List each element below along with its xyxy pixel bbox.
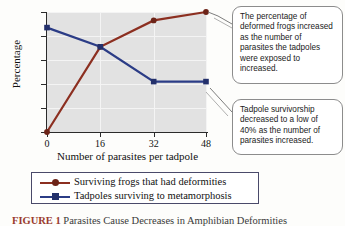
series-line-survivorship <box>47 28 206 82</box>
legend-marker-circle-icon <box>40 176 70 188</box>
legend-label: Surviving frogs that had deformities <box>70 176 226 188</box>
callout-survivorship: Tadpole survivorship decreased to a low … <box>232 99 343 155</box>
legend-item-deformities: Surviving frogs that had deformities <box>32 175 258 189</box>
figure-caption-text: Parasites Cause Decreases in Amphibian D… <box>63 215 287 226</box>
chart-legend: Surviving frogs that had deformities Tad… <box>31 172 259 204</box>
legend-label: Tadpoles surviving to metamorphosis <box>70 190 232 202</box>
series-point-survivorship <box>98 44 104 50</box>
callout-deformities: The percentage of deformed frogs increas… <box>232 6 343 84</box>
series-layer <box>0 0 240 160</box>
series-point-deformities <box>151 18 157 24</box>
series-point-survivorship <box>151 79 157 85</box>
series-point-survivorship <box>203 79 209 85</box>
series-point-deformities <box>44 129 50 135</box>
series-point-deformities <box>203 9 209 15</box>
chart-plot: 100 80 60 40 20 0 0 16 32 48 Percentage … <box>0 0 240 160</box>
figure-caption: FIGURE 1 Parasites Cause Decreases in Am… <box>12 215 342 226</box>
figure-container: 100 80 60 40 20 0 0 16 32 48 Percentage … <box>0 0 345 226</box>
series-line-deformities <box>47 12 206 132</box>
legend-item-survivorship: Tadpoles surviving to metamorphosis <box>32 189 258 203</box>
legend-marker-square-icon <box>40 190 70 202</box>
series-point-survivorship <box>44 25 50 31</box>
figure-caption-number: FIGURE 1 <box>12 215 61 226</box>
